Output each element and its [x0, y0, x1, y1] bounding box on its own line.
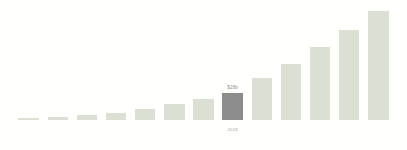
- bar-value-label: $28b: [227, 86, 238, 91]
- bar-slot: [164, 104, 184, 120]
- bar[interactable]: [368, 11, 388, 120]
- bar-chart: $28b2018: [0, 0, 407, 150]
- bar-slot: [193, 99, 213, 120]
- bar-slot: [310, 47, 330, 120]
- bar[interactable]: [135, 109, 155, 120]
- plot-area: $28b2018: [0, 0, 407, 150]
- bar-slot: [368, 11, 388, 120]
- bar-slot: [281, 64, 301, 120]
- bar-slot: [339, 30, 359, 120]
- bar[interactable]: [106, 113, 126, 120]
- bar[interactable]: [18, 118, 38, 120]
- bar[interactable]: [48, 117, 68, 120]
- bar-slot: [77, 115, 97, 120]
- bar[interactable]: [193, 99, 213, 120]
- bar[interactable]: [77, 115, 97, 120]
- bar-highlighted[interactable]: [222, 93, 242, 120]
- bar-slot: [106, 113, 126, 120]
- bar[interactable]: [164, 104, 184, 120]
- bar[interactable]: [310, 47, 330, 120]
- bar-slot: [252, 78, 272, 120]
- bar-slot: [135, 109, 155, 120]
- bar[interactable]: [339, 30, 359, 120]
- bar-slot: [18, 118, 38, 120]
- bar-slot: [48, 117, 68, 120]
- bar-slot: [222, 93, 242, 120]
- bar[interactable]: [281, 64, 301, 120]
- bar[interactable]: [252, 78, 272, 120]
- x-axis-tick-label: 2018: [227, 128, 237, 132]
